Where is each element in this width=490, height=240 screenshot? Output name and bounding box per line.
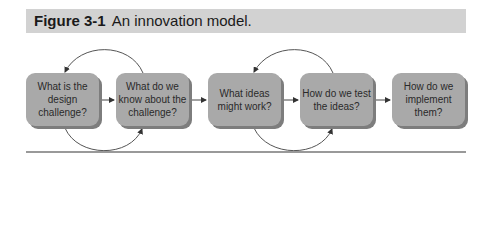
step-box-1: What is the design challenge? — [26, 73, 99, 126]
step-box-5: How do we implement them? — [392, 73, 465, 126]
step-label: How do we implement them? — [392, 80, 465, 119]
step-box-2: What do we know about the challenge? — [116, 73, 189, 126]
step-box-4: How do we test the ideas? — [300, 73, 373, 126]
bottom-rule — [26, 151, 466, 153]
step-box-3: What ideas might work? — [208, 73, 281, 126]
step-label: How do we test the ideas? — [300, 87, 373, 113]
step-label: What ideas might work? — [208, 87, 281, 113]
step-label: What do we know about the challenge? — [116, 80, 189, 119]
step-label: What is the design challenge? — [26, 80, 99, 119]
